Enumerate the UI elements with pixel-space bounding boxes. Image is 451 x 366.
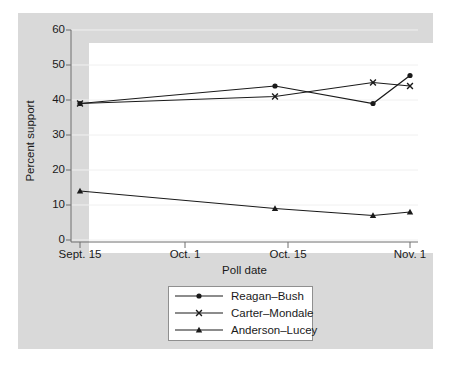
y-tick-label-0: 0	[31, 234, 65, 246]
legend-key-x-icon	[173, 306, 225, 320]
x-tick-label-0: Sept. 15	[59, 248, 102, 260]
legend-key-circle-icon	[173, 289, 225, 303]
legend-label-1: Carter–Mondale	[231, 307, 313, 319]
legend-key-triangle-icon	[173, 323, 225, 337]
y-axis-title: Percent support	[24, 81, 36, 201]
x-axis-title: Poll date	[71, 264, 418, 276]
y-tick-label-30: 30	[31, 129, 65, 141]
legend-label-0: Reagan–Bush	[231, 290, 304, 302]
legend-item-0[interactable]: Reagan–Bush	[169, 287, 312, 304]
plot-area	[89, 43, 436, 253]
legend-item-2[interactable]: Anderson–Lucey	[169, 321, 312, 338]
x-tick-label-1: Oct. 1	[170, 248, 201, 260]
chart-figure: 0102030405060 Sept. 15Oct. 1Oct. 15Nov. …	[0, 0, 451, 366]
x-tick-label-2: Oct. 15	[269, 248, 306, 260]
y-tick-label-40: 40	[31, 94, 65, 106]
y-tick-label-20: 20	[31, 164, 65, 176]
y-tick-label-60: 60	[31, 24, 65, 36]
chart-legend: Reagan–BushCarter–MondaleAnderson–Lucey	[168, 286, 313, 341]
legend-label-2: Anderson–Lucey	[231, 324, 317, 336]
y-tick-label-50: 50	[31, 59, 65, 71]
x-tick-label-3: Nov. 1	[394, 248, 426, 260]
y-tick-label-10: 10	[31, 199, 65, 211]
legend-item-1[interactable]: Carter–Mondale	[169, 304, 312, 321]
